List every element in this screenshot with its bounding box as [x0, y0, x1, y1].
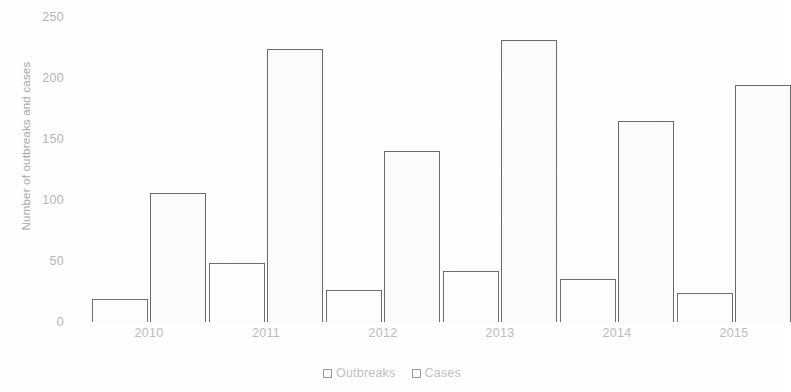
bar-outbreaks-2013 — [443, 271, 499, 322]
bar-cases-2010 — [150, 193, 206, 322]
legend-item-outbreaks[interactable]: Outbreaks — [323, 366, 395, 380]
legend-item-cases[interactable]: Cases — [412, 366, 461, 380]
bar-outbreaks-2012 — [326, 290, 382, 322]
bar-outbreaks-2010 — [92, 299, 148, 322]
x-axis-tick-labels: 201020112012201320142015 — [74, 326, 784, 350]
bar-cases-2015 — [735, 85, 791, 322]
y-axis-tick-label: 50 — [49, 254, 64, 268]
legend-label: Outbreaks — [336, 366, 395, 380]
x-axis-tick-label: 2013 — [485, 326, 514, 340]
square-outline-icon — [323, 369, 332, 378]
bar-outbreaks-2015 — [677, 293, 733, 322]
x-axis-tick-label: 2011 — [252, 326, 280, 340]
legend-label: Cases — [425, 366, 461, 380]
y-axis-tick-label: 250 — [42, 10, 64, 24]
bar-outbreaks-2014 — [560, 279, 616, 322]
y-axis-tick-label: 100 — [42, 193, 64, 207]
bar-cases-2014 — [618, 121, 674, 322]
plot-area — [74, 10, 784, 322]
y-axis-tick-label: 0 — [57, 315, 64, 329]
x-axis-tick-label: 2015 — [719, 326, 748, 340]
bar-cases-2011 — [267, 49, 323, 322]
square-outline-icon — [412, 369, 421, 378]
y-axis-tick-label: 150 — [42, 132, 64, 146]
x-axis-tick-label: 2010 — [134, 326, 163, 340]
y-axis-tick-labels: 050100150200250 — [0, 0, 74, 392]
bar-cases-2013 — [501, 40, 557, 322]
x-axis-tick-label: 2012 — [368, 326, 397, 340]
chart-legend: OutbreaksCases — [0, 366, 784, 380]
bar-outbreaks-2011 — [209, 263, 265, 322]
x-axis-tick-label: 2014 — [602, 326, 631, 340]
y-axis-tick-label: 200 — [42, 71, 64, 85]
bar-cases-2012 — [384, 151, 440, 322]
